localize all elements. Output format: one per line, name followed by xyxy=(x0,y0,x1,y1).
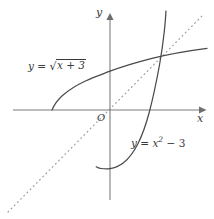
y-axis-arrowhead xyxy=(106,13,113,20)
identity-line-dotted xyxy=(8,14,204,212)
radical-group: √x + 3 xyxy=(49,59,85,72)
graph-figure: y x O y = √x + 3 y = x2 − 3 xyxy=(0,0,214,219)
sqrt-label-equals: = xyxy=(37,60,46,72)
parabola-label-constant: 3 xyxy=(179,137,186,149)
x-axis-label: x xyxy=(197,113,203,124)
origin-label: O xyxy=(97,113,105,123)
parabola-left-stub xyxy=(96,167,101,169)
radical-sign-icon: √ xyxy=(49,60,56,73)
parabola-label-operator: − xyxy=(166,137,175,149)
parabola-curve-label: y = x2 − 3 xyxy=(131,136,185,148)
y-axis-label: y xyxy=(96,7,102,18)
radicand: x + 3 xyxy=(56,59,85,71)
sqrt-label-lhs: y xyxy=(28,60,34,72)
parabola-label-equals: = xyxy=(140,137,149,149)
parabola-label-exponent: 2 xyxy=(158,135,163,144)
parabola-label-lhs: y xyxy=(131,137,137,149)
square-root-curve-label: y = √x + 3 xyxy=(28,59,86,72)
graph-canvas xyxy=(0,0,214,219)
